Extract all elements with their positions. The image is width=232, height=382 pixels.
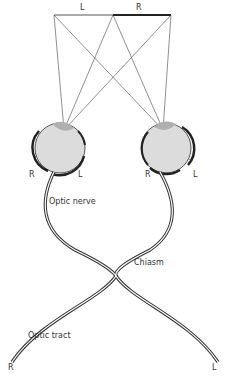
diagram-canvas — [0, 0, 232, 382]
right-eye-r-label: R — [145, 171, 151, 179]
visual-pathway-diagram: L R R L R L Optic nerve Chiasm Optic tra… — [0, 0, 232, 382]
optic-nerve-label: Optic nerve — [49, 198, 96, 206]
right-eye-l-label: L — [193, 171, 197, 179]
left-eye-r-label: R — [29, 171, 35, 179]
tract-end-r-label: R — [8, 364, 14, 372]
visual-field-right-label: R — [136, 4, 142, 12]
left-eye-l-label: L — [78, 171, 82, 179]
tract-end-l-label: L — [212, 364, 216, 372]
visual-field-left-label: L — [80, 4, 84, 12]
left-eye — [32, 122, 85, 175]
right-eye — [141, 122, 194, 174]
chiasm-label: Chiasm — [134, 259, 164, 267]
optic-tract-label: Optic tract — [28, 332, 71, 340]
